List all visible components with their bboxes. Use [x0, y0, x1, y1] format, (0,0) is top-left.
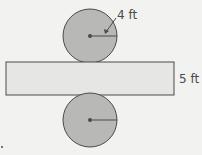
- bottom-circle: [63, 93, 117, 147]
- radius-label: 4 ft: [117, 8, 137, 22]
- bottom-center-dot: [88, 118, 92, 122]
- lateral-rectangle: 5 ft: [6, 62, 199, 95]
- height-label: 5 ft: [179, 72, 199, 86]
- top-center-dot: [88, 34, 92, 38]
- cylinder-net-diagram: 4 ft 5 ft: [0, 0, 202, 155]
- stray-dot: [1, 146, 3, 148]
- top-circle: 4 ft: [63, 8, 137, 63]
